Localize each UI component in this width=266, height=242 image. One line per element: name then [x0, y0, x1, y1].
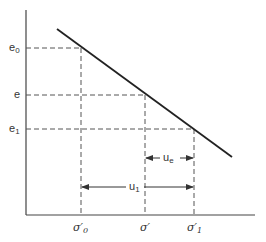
label-e0: e0: [9, 42, 20, 55]
label-e: e: [14, 89, 20, 100]
label-sigma: σ′: [140, 222, 150, 233]
label-u1: u1: [129, 181, 140, 194]
label-e1: e1: [9, 123, 20, 136]
e-sigma-diagram: [0, 0, 266, 242]
label-ue: ue: [163, 152, 174, 165]
label-sigma1: σ′1: [187, 222, 202, 235]
label-sigma0: σ′0: [73, 222, 88, 235]
